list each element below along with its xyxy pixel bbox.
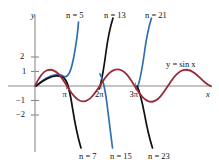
curve-n23 <box>137 86 153 148</box>
series-label-n15: n = 15 <box>110 152 132 161</box>
curve-n15 <box>100 74 113 148</box>
y-axis-label: y <box>31 11 35 20</box>
y-tick-label-2: 2 <box>20 52 24 61</box>
curve-n7 <box>36 76 81 148</box>
y-tick-label-minus-1: −1 <box>16 96 25 105</box>
sine-curve-label: y = sin x <box>166 60 196 69</box>
x-tick-label-3pi: 3π <box>130 90 139 99</box>
series-label-n5: n = 5 <box>66 11 84 20</box>
series-label-n13: n = 13 <box>104 11 126 20</box>
x-tick-label-pi: π <box>63 90 67 99</box>
plot-canvas <box>0 0 219 166</box>
y-tick-label-1: 1 <box>22 67 26 76</box>
series-label-n7: n = 7 <box>79 152 97 161</box>
series-label-n21: n = 21 <box>145 11 167 20</box>
series-label-n23: n = 23 <box>148 152 170 161</box>
x-tick-label-2pi: 2π <box>95 90 104 99</box>
curve-n21 <box>137 18 152 89</box>
x-axis-label: x <box>206 90 210 99</box>
y-tick-label-minus-2: −2 <box>16 110 25 119</box>
taylor-polynomial-figure: y x 2 1 −1 −2 π 2π 3π y = sin x n = 5 n … <box>0 0 219 166</box>
